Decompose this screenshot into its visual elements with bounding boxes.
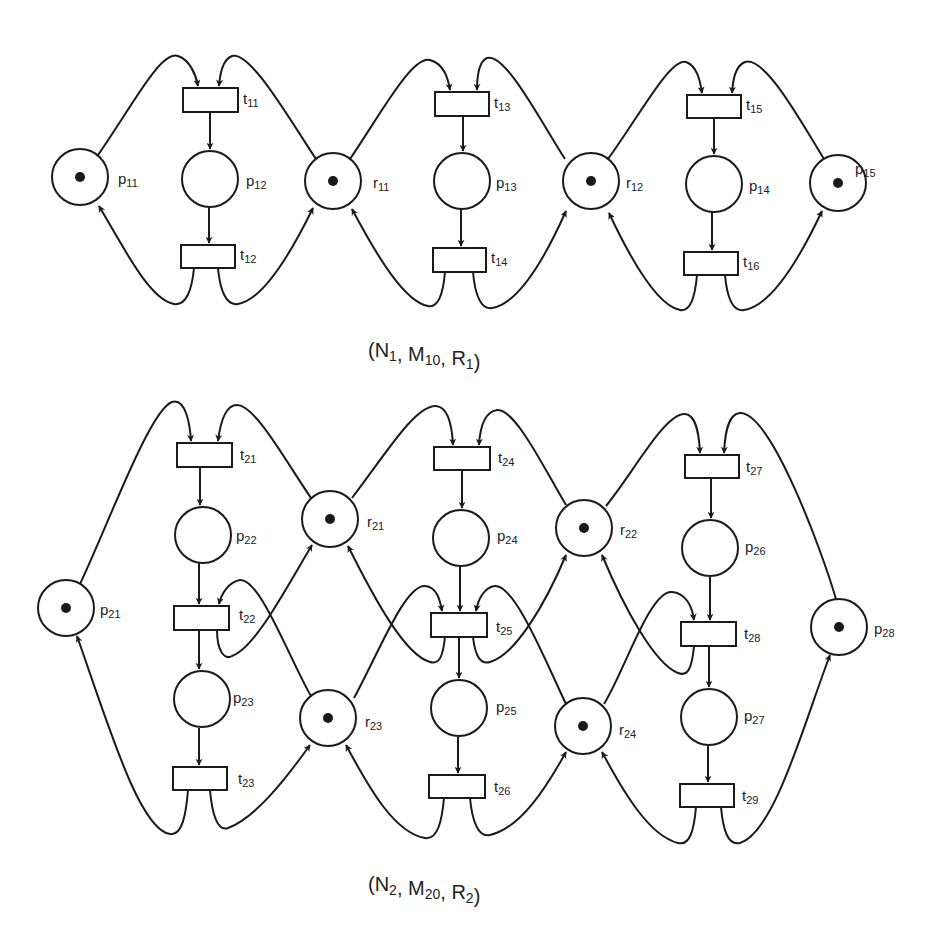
place-label-p23: p23 xyxy=(233,689,254,708)
petri-net-n2: p21p22p23r21r23p24p25r22r24p26p27p28t21t… xyxy=(38,402,895,907)
transition-box xyxy=(177,443,232,467)
transition-t28: t28 xyxy=(681,622,760,646)
transition-label-t25: t25 xyxy=(496,618,512,637)
transition-label-t24: t24 xyxy=(498,449,514,468)
petri-net-diagram: p11p12r11p13r12p14p15t11t12t13t14t15t16(… xyxy=(0,0,946,930)
transition-label-t29: t29 xyxy=(742,787,758,806)
place-p25: p25 xyxy=(431,680,517,736)
place-label-r11: r11 xyxy=(373,174,389,193)
token-icon xyxy=(834,622,844,632)
transition-t12: t12 xyxy=(181,245,256,268)
place-p12: p12 xyxy=(182,151,267,207)
place-circle xyxy=(174,671,230,727)
place-r11: r11 xyxy=(305,153,389,209)
transition-box xyxy=(687,95,741,118)
place-p15: p15 xyxy=(810,155,876,211)
transition-label-t11: t11 xyxy=(243,90,259,109)
arc-t22-to-r21 xyxy=(217,545,312,657)
transition-box xyxy=(181,245,235,268)
token-icon xyxy=(75,172,85,182)
transition-t24: t24 xyxy=(434,447,514,470)
net-caption: (N2, M20, R2) xyxy=(368,873,480,907)
transition-label-t14: t14 xyxy=(491,249,507,268)
arc-r22-to-t24 xyxy=(479,410,566,505)
token-icon xyxy=(579,523,589,533)
place-p23: p23 xyxy=(174,671,254,727)
place-circle xyxy=(182,151,238,207)
transition-box xyxy=(429,775,485,798)
place-label-p15: p15 xyxy=(855,160,876,179)
token-icon xyxy=(833,178,843,188)
transition-box xyxy=(434,447,490,470)
arc-t25-to-r21 xyxy=(348,546,445,663)
transition-box xyxy=(183,88,238,112)
transition-box xyxy=(431,613,487,637)
transition-t14: t14 xyxy=(433,248,507,272)
transition-box xyxy=(680,784,734,807)
place-p27: p27 xyxy=(681,689,765,745)
place-circle xyxy=(682,520,738,576)
arc-r23-to-t22 xyxy=(219,580,311,696)
transition-t22: t22 xyxy=(174,606,255,630)
place-label-p28: p28 xyxy=(874,620,895,639)
transition-t11: t11 xyxy=(183,88,259,112)
place-label-r12: r12 xyxy=(626,174,643,193)
transition-label-t26: t26 xyxy=(494,778,510,797)
place-circle xyxy=(681,689,737,745)
place-p13: p13 xyxy=(434,153,517,209)
transition-box xyxy=(435,92,489,116)
transition-t23: t23 xyxy=(173,767,254,790)
token-icon xyxy=(328,176,338,186)
transition-box xyxy=(433,248,486,272)
transition-box xyxy=(174,606,229,630)
arc-r12-to-t13 xyxy=(477,58,565,159)
transition-box xyxy=(173,767,227,790)
transition-t26: t26 xyxy=(429,775,510,798)
place-p14: p14 xyxy=(686,156,770,212)
net-caption: (N1, M10, R1) xyxy=(368,339,480,373)
transition-t15: t15 xyxy=(687,95,762,118)
transition-label-t13: t13 xyxy=(494,94,510,113)
place-p28: p28 xyxy=(811,599,895,655)
place-label-p13: p13 xyxy=(496,174,517,193)
place-label-r23: r23 xyxy=(365,713,382,732)
transition-label-t12: t12 xyxy=(240,246,256,265)
token-icon xyxy=(586,176,596,186)
arc-p21-to-t21 xyxy=(80,402,191,584)
place-p26: p26 xyxy=(682,520,766,576)
transition-t29: t29 xyxy=(680,784,758,807)
place-label-p26: p26 xyxy=(745,538,766,557)
place-label-r22: r22 xyxy=(620,521,637,540)
transition-label-t27: t27 xyxy=(746,458,762,477)
place-label-p22: p22 xyxy=(236,527,257,546)
transition-t16: t16 xyxy=(684,252,759,275)
place-circle xyxy=(433,510,489,566)
token-icon xyxy=(61,603,71,613)
transition-t25: t25 xyxy=(431,613,512,637)
transition-box xyxy=(685,455,739,478)
transition-label-t22: t22 xyxy=(239,606,255,625)
arc-t23-to-p21 xyxy=(77,636,188,834)
place-label-r24: r24 xyxy=(619,721,636,740)
transition-label-t28: t28 xyxy=(744,625,760,644)
token-icon xyxy=(578,721,588,731)
arc-r23-to-t25 xyxy=(354,586,442,698)
place-p11: p11 xyxy=(52,149,138,205)
arc-t29-to-p28 xyxy=(721,655,830,843)
place-r12: r12 xyxy=(563,153,643,209)
arc-r24-to-t25 xyxy=(476,586,566,704)
place-label-r21: r21 xyxy=(367,513,384,532)
token-icon xyxy=(323,713,333,723)
petri-net-n1: p11p12r11p13r12p14p15t11t12t13t14t15t16(… xyxy=(52,56,876,373)
place-p21: p21 xyxy=(38,580,121,636)
place-label-p27: p27 xyxy=(744,707,765,726)
arc-r24-to-t28 xyxy=(604,592,694,704)
place-label-p12: p12 xyxy=(246,172,267,191)
place-circle xyxy=(686,156,742,212)
place-p24: p24 xyxy=(433,510,518,566)
arc-t12-to-p11 xyxy=(99,206,194,304)
place-circle xyxy=(434,153,490,209)
place-circle xyxy=(175,507,231,563)
arc-p28-to-t27 xyxy=(724,413,836,599)
place-circle xyxy=(431,680,487,736)
